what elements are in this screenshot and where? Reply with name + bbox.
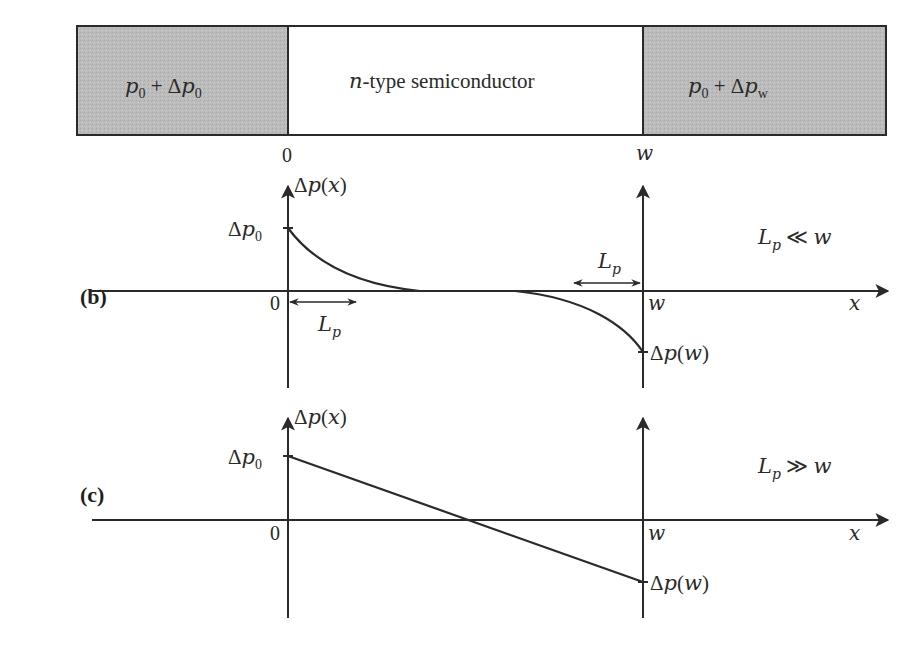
w-label: w bbox=[648, 521, 665, 545]
panel-c-label: (c) bbox=[80, 482, 104, 507]
origin-label: 0 bbox=[270, 522, 280, 544]
right-contact-region bbox=[643, 26, 886, 135]
decay-curve-left bbox=[288, 228, 420, 291]
dp0-label: Δp0 bbox=[228, 445, 262, 472]
x-axis-label: x bbox=[849, 521, 860, 545]
condition-label: Lp ≫ w bbox=[757, 454, 831, 482]
panel-b-label: (b) bbox=[80, 284, 107, 309]
w-label: w bbox=[648, 291, 665, 315]
center-region-label: n-type semiconductor bbox=[349, 69, 535, 93]
x-axis-label: x bbox=[849, 291, 860, 315]
y-axis-label: Δp(x) bbox=[294, 173, 347, 197]
diffusion-length-label-left: Lp bbox=[317, 312, 341, 340]
y-axis-label: Δp(x) bbox=[294, 405, 347, 429]
origin-label: 0 bbox=[270, 292, 280, 314]
panel-a: (a) p0 + Δp0 n-type semiconductor p0 + Δ… bbox=[77, 26, 886, 166]
dpw-label: Δp(w) bbox=[650, 571, 709, 595]
condition-label: Lp ≪ w bbox=[757, 225, 831, 253]
panel-c: (c) Δp(x) Δp0 Δp(w) 0 w x Lp ≫ w bbox=[80, 405, 888, 618]
semiconductor-diagram: (a) p0 + Δp0 n-type semiconductor p0 + Δ… bbox=[0, 0, 913, 645]
dpw-label: Δp(w) bbox=[650, 341, 709, 365]
tick-label-zero: 0 bbox=[282, 144, 292, 166]
left-region-label: p0 + Δp0 bbox=[125, 74, 202, 101]
right-region-label: p0 + Δpw bbox=[688, 74, 769, 101]
tick-label-w: w bbox=[636, 141, 653, 165]
panel-b: (b) Δp(x) Δp0 Δp(w) 0 w x Lp bbox=[80, 173, 888, 388]
diffusion-length-label-right: Lp bbox=[597, 249, 621, 277]
dp0-label: Δp0 bbox=[228, 217, 262, 244]
decay-curve-right bbox=[515, 291, 643, 352]
